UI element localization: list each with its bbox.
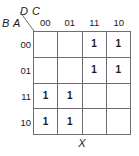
- column-header-3: 10: [107, 16, 132, 30]
- kmap-cell-grid: 1 1 1 1 1 1 1 1: [33, 31, 131, 135]
- kmap-cell[interactable]: [58, 32, 82, 58]
- kmap-cell[interactable]: 1: [58, 109, 82, 135]
- row-header-3: 10: [6, 109, 31, 135]
- row-header-2: 11: [6, 83, 31, 109]
- kmap-cell[interactable]: 1: [107, 32, 131, 58]
- kmap-cell[interactable]: [107, 84, 131, 110]
- kmap-cell[interactable]: 1: [107, 58, 131, 84]
- column-header-row: 00 01 11 10: [33, 16, 131, 30]
- row-header-0: 00: [6, 31, 31, 57]
- row-header-1: 01: [6, 57, 31, 83]
- kmap-cell[interactable]: [34, 32, 58, 58]
- kmap-cell[interactable]: [83, 84, 107, 110]
- kmap-cell[interactable]: [34, 58, 58, 84]
- column-header-2: 11: [82, 16, 107, 30]
- column-header-1: 01: [58, 16, 83, 30]
- kmap-cell[interactable]: [107, 109, 131, 135]
- kmap-cell[interactable]: [83, 109, 107, 135]
- output-function-label: X: [33, 137, 131, 149]
- kmap-cell[interactable]: 1: [34, 109, 58, 135]
- kmap-cell[interactable]: 1: [58, 84, 82, 110]
- kmap-cell[interactable]: [58, 58, 82, 84]
- row-header-column: 00 01 11 10: [6, 31, 31, 135]
- kmap-cell[interactable]: 1: [34, 84, 58, 110]
- kmap-cell[interactable]: 1: [83, 58, 107, 84]
- column-header-0: 00: [33, 16, 58, 30]
- kmap-cell[interactable]: 1: [83, 32, 107, 58]
- karnaugh-map-figure: D C B A 00 01 11 10 00 01 11 10 1 1 1 1 …: [0, 0, 139, 156]
